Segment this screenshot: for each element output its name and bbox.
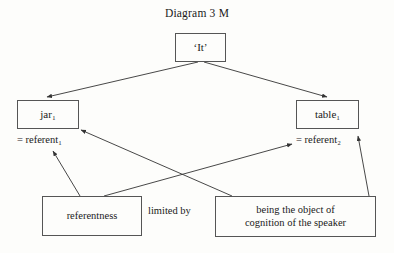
diagram-canvas: Diagram 3 M ‘It’ jar₁ table₁ referentnes… xyxy=(0,0,394,253)
node-it[interactable]: ‘It’ xyxy=(175,33,226,62)
annotation-referent-1: = referent₁ xyxy=(17,134,62,145)
node-referentness[interactable]: referentness xyxy=(42,196,142,236)
node-being-label: being the object of cognition of the spe… xyxy=(245,204,346,229)
node-being-object-of-cognition[interactable]: being the object of cognition of the spe… xyxy=(215,196,376,237)
node-it-label: ‘It’ xyxy=(193,41,207,54)
node-jar[interactable]: jar₁ xyxy=(17,100,79,129)
annotation-referent-2: = referent₂ xyxy=(296,134,341,145)
edge-referentness-to-referent2 xyxy=(104,144,292,196)
node-jar-label: jar₁ xyxy=(40,108,55,121)
edge-referentness-to-referent1 xyxy=(53,151,80,196)
edge-it-to-table xyxy=(204,62,327,97)
annotation-limited-by: limited by xyxy=(148,205,191,216)
node-table[interactable]: table₁ xyxy=(296,100,359,129)
node-table-label: table₁ xyxy=(315,108,340,121)
edge-being-to-jar xyxy=(81,130,232,196)
node-referentness-label: referentness xyxy=(67,210,118,222)
edge-it-to-jar xyxy=(47,62,198,97)
edge-being-to-table xyxy=(358,136,369,196)
